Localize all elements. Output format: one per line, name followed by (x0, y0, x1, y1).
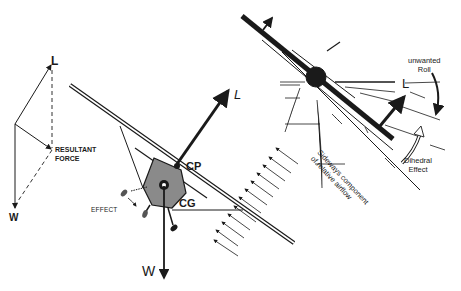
cp-label: CP (186, 161, 201, 172)
roll-label-line1: unwanted (408, 56, 441, 65)
resultant-label-line1: RESULTANT (55, 145, 96, 154)
triangle-weight-label: W (9, 213, 18, 223)
dihedral-label-line1: Dihedral (404, 156, 432, 165)
dihedral-label-line2: Effect (404, 165, 432, 174)
dashed-weight-projection (16, 150, 52, 204)
resultant-vector (15, 124, 51, 149)
relative-airflow-arrows (214, 148, 298, 256)
triangle-lift-label: L (51, 55, 58, 67)
cg-label: CG (179, 198, 196, 209)
resultant-label-line2: FORCE (55, 154, 96, 163)
effect-arrow (128, 198, 136, 206)
roll-label-line2: Roll (408, 65, 441, 74)
roll-arrow (432, 73, 438, 114)
force-triangle (15, 65, 52, 208)
lift-arrow (177, 91, 228, 164)
lift-vector (15, 65, 51, 124)
dihedral-effect-label: Dihedral Effect (404, 156, 432, 174)
front-lift-label: L (234, 88, 241, 101)
effect-label: EFFECT (91, 207, 117, 214)
rear-lift-label: L (402, 77, 409, 90)
front-weight-label: W (142, 264, 155, 278)
resultant-force-label: RESULTANT FORCE (55, 145, 96, 163)
unwanted-roll-label: unwanted Roll (408, 56, 441, 74)
banked-aircraft-front (70, 85, 294, 278)
